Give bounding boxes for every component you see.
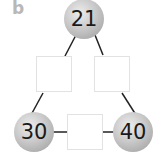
bottom-answer-box[interactable]	[67, 114, 103, 150]
right-answer-box[interactable]	[94, 56, 130, 92]
left-answer-box[interactable]	[36, 56, 72, 92]
bottom-left-number-node: 30	[14, 112, 54, 152]
bottom-right-number-node: 40	[113, 112, 153, 152]
top-number-node: 21	[64, 0, 104, 39]
